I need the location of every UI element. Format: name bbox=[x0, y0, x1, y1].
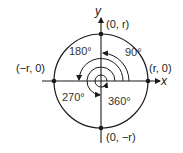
y-axis-label: y bbox=[94, 4, 102, 18]
point-right bbox=[146, 79, 151, 84]
x-axis-label: x bbox=[160, 74, 168, 88]
angle-label-270: 270° bbox=[62, 91, 85, 103]
point-label-left: (−r, 0) bbox=[16, 62, 45, 74]
point-bottom bbox=[99, 126, 104, 131]
angle-label-360: 360° bbox=[108, 95, 131, 107]
angle-label-90: 90° bbox=[125, 46, 142, 58]
point-label-top: (0, r) bbox=[106, 18, 129, 30]
angle-label-180: 180° bbox=[69, 45, 92, 57]
point-label-bottom: (0, −r) bbox=[106, 131, 136, 143]
unit-circle-diagram: y x (0, r) (r, 0) (−r, 0) (0, −r) 90° 18… bbox=[0, 0, 183, 153]
point-label-right: (r, 0) bbox=[149, 62, 172, 74]
point-top bbox=[99, 32, 104, 37]
point-left bbox=[52, 79, 57, 84]
